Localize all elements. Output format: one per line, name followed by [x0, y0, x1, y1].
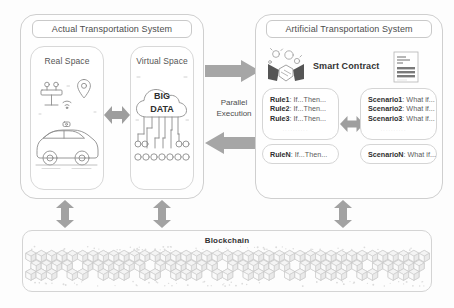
diagram-canvas: Actual Transportation System Real Space — [0, 0, 454, 308]
network-nodes-icon — [135, 117, 189, 160]
parallel-execution-arrow-left — [205, 132, 260, 154]
scenario-item: Scenario1: What if... — [368, 95, 436, 104]
big-data-line1: BIG — [130, 91, 194, 101]
rules-box: Rule1: If...Then... Rule2: If...Then... … — [262, 88, 339, 140]
scenario-name: Scenario2 — [368, 104, 402, 113]
rules-ellipsis: . . . . . . . . . . — [283, 128, 307, 132]
parallel-execution-label-line2: Execution — [206, 108, 262, 119]
real-virtual-bidirectional-arrow — [104, 103, 130, 127]
artificial-system-title: Artificial Transportation System — [266, 20, 432, 38]
blockchain-connector-arrow-right — [333, 200, 353, 228]
real-space-label: Real Space — [30, 56, 104, 66]
virtual-space-art — [133, 68, 191, 180]
location-pin-icon — [78, 80, 91, 99]
scenario-name: Scenario3 — [368, 114, 402, 123]
scenario-text: : What if... — [402, 95, 434, 104]
rule-text: : If...Then... — [290, 95, 326, 104]
handshake-icon — [266, 48, 306, 86]
scenario-name: Scenario1 — [368, 95, 402, 104]
blockchain-connector-arrow-left — [55, 200, 75, 228]
traffic-light-icon — [41, 82, 62, 105]
big-data-line2: DATA — [130, 104, 194, 114]
rule-n-box: RuleN: If...Then... — [262, 144, 339, 164]
scenario-text: : What if... — [402, 114, 434, 123]
real-space-art — [34, 72, 100, 176]
scenario-item: Scenario3: What if... — [368, 114, 436, 123]
scenario-text: : What if... — [402, 104, 434, 113]
wifi-signal-icon — [63, 101, 71, 109]
scenario-n-item: ScenarioN: What if... — [368, 150, 436, 159]
scenario-item: Scenario2: What if... — [368, 104, 436, 113]
scenario-n-text: : What if... — [404, 150, 436, 159]
scenario-n-box: ScenarioN: What if... — [360, 144, 437, 164]
rule-name: Rule2 — [270, 104, 290, 113]
scenarios-ellipsis: . . . . . . . . . . — [381, 128, 405, 132]
virtual-space-label: Virtual Space — [130, 56, 194, 66]
blockchain-panel: Blockchain — [22, 230, 432, 292]
rule-n-item: RuleN: If...Then... — [270, 150, 327, 159]
rule-text: : If...Then... — [290, 114, 326, 123]
autonomous-car-icon — [36, 122, 98, 169]
contract-document-icon — [392, 50, 420, 84]
rule-n-name: RuleN — [270, 150, 291, 159]
rule-name: Rule1 — [270, 95, 290, 104]
rule-n-text: : If...Then... — [291, 150, 327, 159]
blockchain-label: Blockchain — [23, 236, 431, 245]
actual-system-title: Actual Transportation System — [32, 20, 192, 38]
parallel-execution-label: Parallel Execution — [206, 97, 262, 119]
rule-item: Rule3: If...Then... — [270, 114, 338, 123]
rule-name: Rule3 — [270, 114, 290, 123]
scenarios-box: Scenario1: What if... Scenario2: What if… — [360, 88, 437, 140]
parallel-execution-label-line1: Parallel — [206, 97, 262, 108]
scenario-n-name: ScenarioN — [368, 150, 404, 159]
rule-item: Rule1: If...Then... — [270, 95, 338, 104]
rule-text: : If...Then... — [290, 104, 326, 113]
blockchain-connector-arrow-middle — [152, 200, 172, 228]
rule-item: Rule2: If...Then... — [270, 104, 338, 113]
parallel-execution-arrow-right — [205, 60, 260, 82]
smart-contract-label: Smart Contract — [313, 61, 379, 71]
